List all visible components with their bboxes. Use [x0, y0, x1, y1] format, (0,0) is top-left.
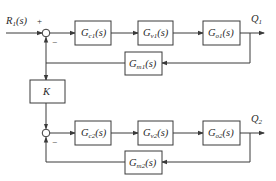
block-go1: Go1(s): [203, 21, 240, 45]
svg-text:R1(s): R1(s): [5, 15, 28, 28]
summing-junction-2: [42, 129, 50, 137]
output-q2: Q2: [251, 113, 263, 126]
block-gv1: Gv1(s): [138, 21, 173, 45]
block-gm2: Gm2(s): [125, 151, 162, 174]
svg-text:K: K: [42, 86, 51, 97]
minus-sign-1: −: [52, 37, 57, 47]
block-gv2: Gv2(s): [138, 121, 173, 145]
plus-sign-1: +: [37, 16, 42, 26]
block-k: K: [30, 80, 65, 103]
output-q1: Q1: [251, 13, 262, 26]
block-gc2: Gc2(s): [75, 121, 111, 145]
block-diagram: R1(s) + − Gc1(s) Gv1(s) Go1(s) Q1 Gm1(s)…: [0, 0, 276, 181]
block-gc1: Gc1(s): [75, 21, 111, 45]
block-gm1: Gm1(s): [125, 52, 162, 75]
summing-junction-1: [42, 29, 50, 37]
block-go2: Go2(s): [203, 121, 240, 145]
input-signal: R1(s): [5, 15, 28, 28]
minus-sign-2: −: [52, 137, 57, 147]
